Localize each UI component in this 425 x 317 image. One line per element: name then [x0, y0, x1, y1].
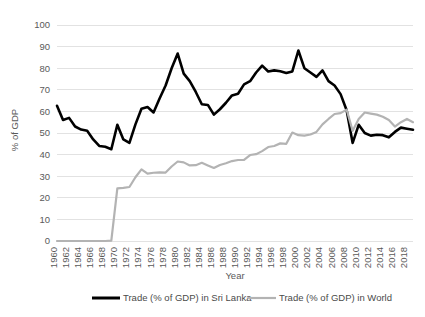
chart-canvas: 0102030405060708090100 19601962196419661…	[0, 0, 425, 317]
x-tick-label: 1974	[132, 247, 143, 268]
y-tick-label: 30	[39, 171, 50, 182]
legend-label-sri-lanka: Trade (% of GDP) in Sri Lanka	[123, 292, 252, 303]
x-tick-label: 1962	[60, 247, 71, 268]
x-tick-label: 1992	[241, 247, 252, 268]
y-axis-title: % of GDP	[9, 109, 20, 151]
y-tick-label: 80	[39, 63, 50, 74]
x-tick-label: 1972	[120, 247, 131, 268]
legend-label-world: Trade (% of GDP) in World	[279, 292, 392, 303]
y-tick-label: 40	[39, 149, 50, 160]
x-tick-label: 1980	[169, 247, 180, 268]
x-tick-label: 2006	[326, 247, 337, 268]
y-tick-label: 90	[39, 41, 50, 52]
y-tick-label: 20	[39, 192, 50, 203]
y-tick-label: 70	[39, 84, 50, 95]
x-tick-label: 1966	[84, 247, 95, 268]
chart-legend: Trade (% of GDP) in Sri LankaTrade (% of…	[92, 292, 392, 303]
x-tick-label: 2012	[362, 247, 373, 268]
x-tick-label: 1996	[265, 247, 276, 268]
trade-gdp-line-chart: 0102030405060708090100 19601962196419661…	[0, 0, 425, 317]
series-line-sri-lanka	[57, 50, 413, 149]
x-tick-label: 1990	[229, 247, 240, 268]
x-tick-label: 2004	[313, 247, 324, 268]
plot-series	[57, 50, 413, 241]
x-axis-tick-labels: 1960196219641966196819701972197419761978…	[48, 247, 409, 268]
x-tick-label: 1994	[253, 247, 264, 268]
y-tick-label: 100	[34, 19, 50, 30]
x-tick-label: 1968	[96, 247, 107, 268]
x-tick-label: 2008	[338, 247, 349, 268]
x-tick-label: 1960	[48, 247, 59, 268]
x-tick-label: 1976	[145, 247, 156, 268]
x-tick-label: 1964	[72, 247, 83, 268]
x-tick-label: 1986	[205, 247, 216, 268]
y-axis-tick-labels: 0102030405060708090100	[34, 19, 50, 246]
gridlines	[57, 25, 413, 241]
x-tick-label: 2018	[398, 247, 409, 268]
y-tick-label: 60	[39, 106, 50, 117]
x-tick-label: 2000	[289, 247, 300, 268]
x-tick-label: 1978	[157, 247, 168, 268]
x-tick-label: 1984	[193, 247, 204, 268]
x-tick-label: 1998	[277, 247, 288, 268]
y-tick-label: 0	[45, 235, 50, 246]
x-axis-title: Year	[225, 270, 244, 281]
series-line-world	[57, 110, 413, 241]
x-tick-label: 2010	[350, 247, 361, 268]
x-tick-label: 1970	[108, 247, 119, 268]
y-tick-label: 10	[39, 214, 50, 225]
x-tick-label: 1982	[181, 247, 192, 268]
x-tick-label: 1988	[217, 247, 228, 268]
y-tick-label: 50	[39, 127, 50, 138]
x-tick-label: 2002	[301, 247, 312, 268]
x-tick-label: 2014	[374, 247, 385, 268]
x-tick-label: 2016	[386, 247, 397, 268]
